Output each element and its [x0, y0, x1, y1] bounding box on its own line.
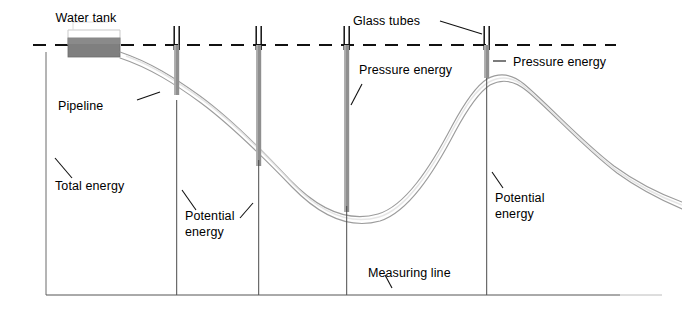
potential-energy-left-label-line2: energy — [185, 225, 224, 239]
glass-tube-3 — [344, 26, 349, 295]
potential-energy-right-leader — [492, 172, 503, 188]
diagram-canvas: Water tank Pipeline Glass tubes Pressure… — [0, 0, 682, 313]
potential-energy-right-label-line1: Potential — [495, 191, 545, 205]
pressure-energy-mid-leader — [351, 84, 362, 105]
total-energy-leader — [55, 158, 72, 178]
glass-tube-1 — [174, 26, 179, 295]
pressure-energy-right-label: Pressure energy — [513, 55, 607, 69]
potential-energy-left-leader-a — [182, 190, 196, 210]
hydraulic-diagram-figure: Water tank Pipeline Glass tubes Pressure… — [0, 0, 682, 313]
total-energy-label: Total energy — [55, 179, 125, 193]
pipeline-conduit — [120, 52, 682, 223]
pressure-energy-mid-label: Pressure energy — [359, 63, 453, 77]
glass-tube-2 — [256, 26, 261, 295]
glass-tube-4 — [484, 26, 489, 295]
measuring-line-label: Measuring line — [368, 266, 451, 280]
water-tank-label: Water tank — [56, 11, 118, 25]
potential-energy-left-leader-b — [240, 203, 253, 218]
glass-tubes-label: Glass tubes — [353, 14, 420, 28]
potential-energy-left-label-line1: Potential — [185, 209, 235, 223]
glass-tubes-leader — [440, 21, 482, 34]
pipeline-label: Pipeline — [58, 99, 103, 113]
potential-energy-right-label-line2: energy — [495, 207, 534, 221]
pipeline-leader — [137, 92, 160, 100]
pipeline-inner-highlight — [126, 56, 682, 220]
water-tank — [68, 30, 120, 57]
